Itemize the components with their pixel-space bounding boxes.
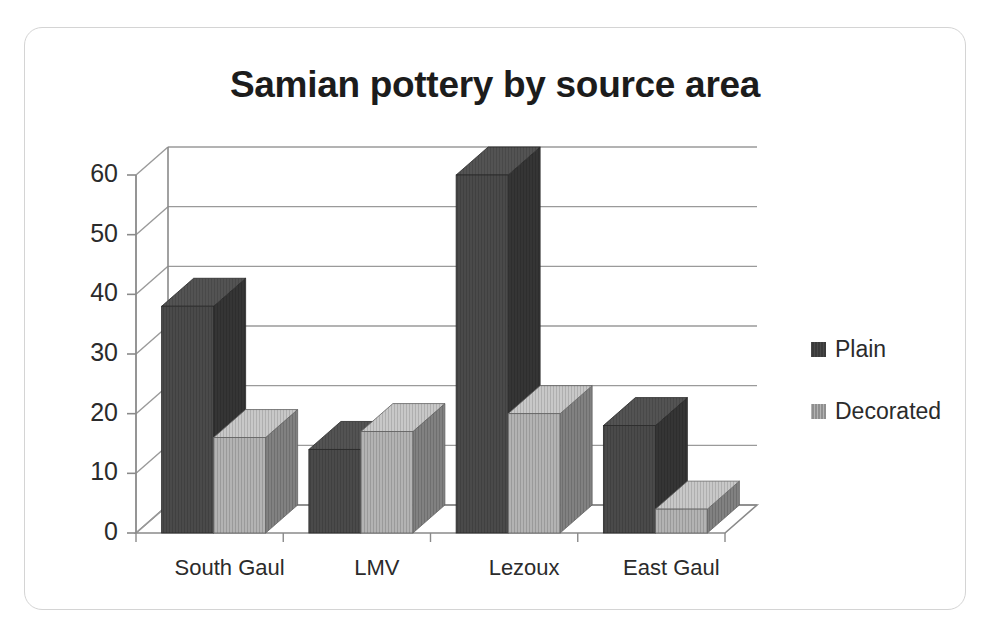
chart-card: Samian pottery by source area 0102030405… (24, 27, 966, 610)
legend-item-decorated[interactable]: Decorated (811, 380, 961, 442)
bar-south-gaul-decorated (214, 410, 298, 533)
legend-swatch-plain-icon (811, 342, 826, 357)
y-axis-label-40: 40 (58, 278, 118, 307)
bars-layer (162, 147, 740, 533)
gridline-depth-40 (136, 266, 168, 294)
legend-label-plain: Plain (835, 336, 886, 363)
legend-item-plain[interactable]: Plain (811, 318, 961, 380)
y-axis-label-20: 20 (58, 398, 118, 427)
x-axis-label-east-gaul: East Gaul (581, 555, 761, 581)
legend-swatch-decorated-icon (811, 404, 826, 419)
y-axis-label-30: 30 (58, 338, 118, 367)
bar-lmv-decorated (361, 404, 445, 533)
chart-legend: PlainDecorated (811, 318, 961, 442)
bar-lezoux-decorated (508, 386, 592, 533)
gridline-depth-50 (136, 207, 168, 235)
y-axis-label-60: 60 (58, 159, 118, 188)
legend-label-decorated: Decorated (835, 398, 941, 425)
y-axis-label-50: 50 (58, 219, 118, 248)
y-axis-label-10: 10 (58, 457, 118, 486)
y-axis-label-0: 0 (58, 517, 118, 546)
gridline-depth-60 (136, 147, 168, 175)
